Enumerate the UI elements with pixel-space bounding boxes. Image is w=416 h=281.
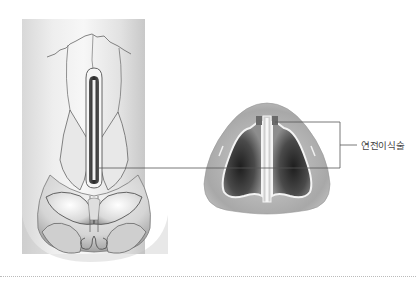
callout-label: 연전이식술 (361, 138, 405, 152)
illustration (0, 0, 416, 281)
nose-front-view (22, 19, 168, 262)
nose-base-section (204, 103, 330, 214)
dotted-divider (0, 276, 416, 277)
